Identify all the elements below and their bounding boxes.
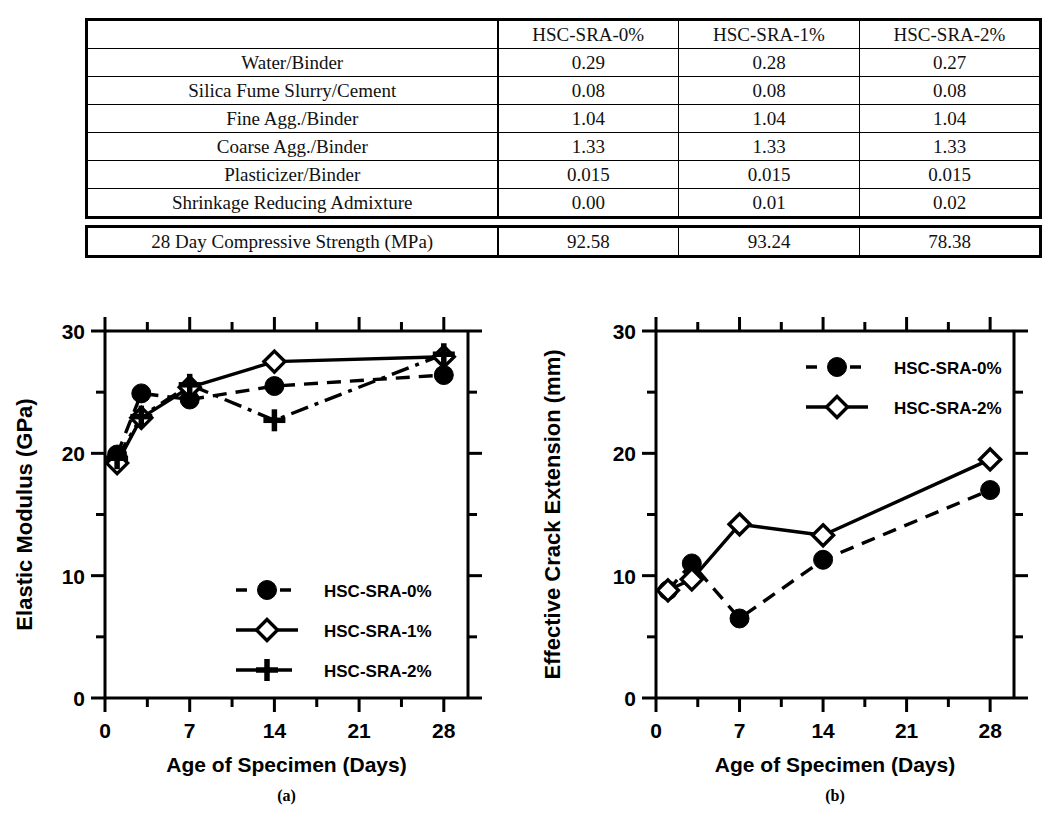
y-tick-label: 30 [62,320,85,343]
legend-label: HSC-SRA-1% [324,622,432,641]
y-tick-label: 10 [613,565,636,588]
table-cell: 0.015 [498,161,679,189]
marker-open-diamond [827,397,848,418]
table-row: Fine Agg./Binder1.041.041.04 [87,105,1041,133]
summary-row-label: 28 Day Compressive Strength (MPa) [87,227,498,257]
table-cell: 0.015 [860,161,1041,189]
series-line [117,354,444,458]
x-tick-label: 0 [650,719,662,742]
table-cell: 0.00 [498,189,679,218]
x-tick-label: 0 [99,719,111,742]
table-header-blank [87,20,498,49]
table-cell: 0.08 [679,77,860,105]
table-row: Plasticizer/Binder0.0150.0150.015 [87,161,1041,189]
marker-open-diamond [813,525,834,546]
panel-label: (a) [277,787,296,805]
summary-row: 28 Day Compressive Strength (MPa)92.5893… [87,227,1041,257]
table-cell: 0.27 [860,49,1041,77]
legend-label: HSC-SRA-2% [324,662,432,681]
marker-filled-circle [981,481,1000,500]
table-cell: 0.08 [498,77,679,105]
summary-cell: 78.38 [860,227,1041,257]
x-tick-label: 7 [734,719,746,742]
table-row: Water/Binder0.290.280.27 [87,49,1041,77]
y-tick-label: 20 [62,442,85,465]
x-tick-label: 21 [347,719,371,742]
table-cell: 1.04 [860,105,1041,133]
table-header-cell: HSC-SRA-1% [679,20,860,49]
y-tick-label: 30 [613,320,636,343]
x-tick-label: 28 [978,719,1002,742]
mix-proportions-grid: HSC-SRA-0%HSC-SRA-1%HSC-SRA-2%Water/Bind… [85,18,1042,219]
table-cell: 0.28 [679,49,860,77]
y-axis-title: Elastic Modulus (GPa) [12,398,37,630]
marker-open-diamond [980,449,1001,470]
legend-label: HSC-SRA-2% [894,399,1002,418]
table-header-row: HSC-SRA-0%HSC-SRA-1%HSC-SRA-2% [87,20,1041,49]
elastic-modulus-chart: 010203007142128HSC-SRA-0%HSC-SRA-1%HSC-S… [0,300,530,817]
x-tick-label: 14 [811,719,835,742]
compressive-strength-grid: 28 Day Compressive Strength (MPa)92.5893… [85,225,1042,258]
y-tick-label: 0 [73,687,85,710]
y-tick-label: 10 [62,565,85,588]
marker-plus [263,409,285,431]
table-row: Shrinkage Reducing Admixture0.000.010.02 [87,189,1041,218]
table-cell: 1.33 [498,133,679,161]
table-row-label: Coarse Agg./Binder [87,133,498,161]
table-row: Silica Fume Slurry/Cement0.080.080.08 [87,77,1041,105]
summary-cell: 92.58 [498,227,679,257]
legend-label: HSC-SRA-0% [324,582,432,601]
table-cell: 1.33 [679,133,860,161]
x-tick-label: 21 [895,719,919,742]
table-row-label: Shrinkage Reducing Admixture [87,189,498,218]
y-tick-label: 20 [613,442,636,465]
table-cell: 0.01 [679,189,860,218]
table-header-cell: HSC-SRA-0% [498,20,679,49]
chart-panel-a: 010203007142128HSC-SRA-0%HSC-SRA-1%HSC-S… [0,300,530,817]
legend-label: HSC-SRA-0% [894,359,1002,378]
marker-plus [256,659,278,681]
y-axis-title: Effective Crack Extension (mm) [540,349,565,679]
x-axis-title: Age of Specimen (Days) [715,753,955,776]
marker-filled-circle [730,609,749,628]
table-cell: 1.04 [498,105,679,133]
x-tick-label: 28 [432,719,456,742]
marker-plus [433,343,455,365]
x-axis-title: Age of Specimen (Days) [166,753,406,776]
crack-extension-chart: 010203007142128HSC-SRA-0%HSC-SRA-2%Age o… [530,300,1049,817]
x-tick-label: 7 [184,719,196,742]
marker-filled-circle [814,550,833,569]
table-row-label: Silica Fume Slurry/Cement [87,77,498,105]
legend: HSC-SRA-0%HSC-SRA-2% [806,358,1002,419]
summary-cell: 93.24 [679,227,860,257]
table-cell: 1.33 [860,133,1041,161]
table-cell: 0.29 [498,49,679,77]
table-row-label: Plasticizer/Binder [87,161,498,189]
chart-panel-b: 010203007142128HSC-SRA-0%HSC-SRA-2%Age o… [530,300,1049,817]
marker-open-diamond [264,351,285,372]
table-cell: 0.02 [860,189,1041,218]
marker-filled-circle [265,377,284,396]
table-cell: 0.015 [679,161,860,189]
y-tick-label: 0 [624,687,636,710]
x-tick-label: 14 [263,719,287,742]
marker-filled-circle [132,384,151,403]
table-row-label: Water/Binder [87,49,498,77]
table-row-label: Fine Agg./Binder [87,105,498,133]
legend: HSC-SRA-0%HSC-SRA-1%HSC-SRA-2% [236,581,432,682]
marker-open-diamond [257,620,278,641]
panel-label: (b) [825,787,845,805]
marker-filled-circle [828,358,847,377]
table-cell: 1.04 [679,105,860,133]
mix-proportions-table: HSC-SRA-0%HSC-SRA-1%HSC-SRA-2%Water/Bind… [85,18,1040,258]
table-cell: 0.08 [860,77,1041,105]
table-header-cell: HSC-SRA-2% [860,20,1041,49]
series-line [668,459,990,590]
table-row: Coarse Agg./Binder1.331.331.33 [87,133,1041,161]
marker-filled-circle [258,581,277,600]
